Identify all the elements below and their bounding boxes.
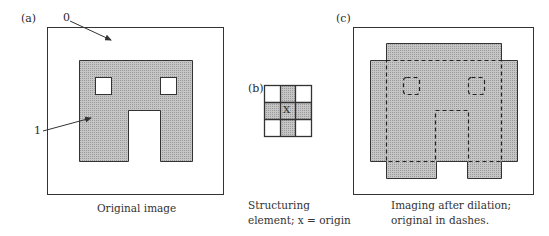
hole-right (161, 78, 177, 95)
caption-c-line1: Imaging after dilation; (391, 198, 511, 213)
caption-b-line1: Structuring (248, 198, 310, 213)
panel-a-original-image (43, 21, 224, 195)
caption-b-line2: element; x = origin (248, 213, 351, 228)
hole-left (96, 78, 112, 95)
panel-a-tag: (a) (21, 13, 36, 25)
panel-c-dilated-image (354, 28, 534, 195)
caption-a: Original image (97, 201, 176, 216)
panel-c-tag: (c) (336, 13, 351, 25)
label-foreground-1: 1 (34, 125, 41, 137)
origin-mark: X (283, 104, 290, 116)
label-background-0: 0 (63, 12, 70, 24)
caption-c-line2: original in dashes. (391, 213, 489, 228)
panel-b-tag: (b) (248, 83, 264, 95)
